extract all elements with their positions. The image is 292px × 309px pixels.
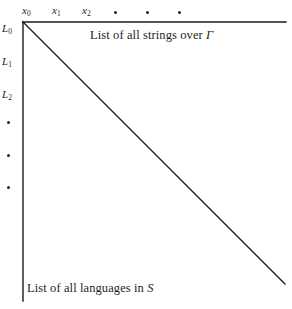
row-ellipsis-dot (7, 186, 10, 189)
row-header-l0: L0 (2, 23, 12, 36)
row-header-l1-subscript: 1 (8, 60, 12, 69)
top-caption: List of all strings over Γ (90, 29, 213, 42)
bottom-caption-symbol-s: S (147, 281, 153, 295)
column-header-x0: x0 (22, 5, 31, 18)
diagram-lines (0, 0, 292, 309)
row-ellipsis-dot (7, 154, 10, 157)
column-ellipsis-dot (178, 11, 181, 14)
row-header-l2: L2 (2, 89, 12, 102)
column-header-x0-subscript: 0 (27, 9, 31, 18)
column-header-x1: x1 (52, 5, 61, 18)
column-ellipsis-dot (146, 11, 149, 14)
column-header-x2: x2 (82, 5, 91, 18)
diagonalization-diagram: x0 x1 x2 L0 L1 L2 List of all strings ov… (0, 0, 292, 309)
top-caption-symbol-gamma: Γ (206, 28, 213, 42)
bottom-caption: List of all languages in S (27, 282, 154, 295)
row-header-l1: L1 (2, 56, 12, 69)
bottom-caption-text: List of all languages in (27, 281, 147, 295)
row-header-l2-subscript: 2 (8, 93, 12, 102)
column-header-x2-subscript: 2 (87, 9, 91, 18)
top-caption-text: List of all strings over (90, 28, 206, 42)
row-ellipsis-dot (7, 121, 10, 124)
row-header-l0-subscript: 0 (8, 27, 12, 36)
column-header-x1-subscript: 1 (57, 9, 61, 18)
column-ellipsis-dot (114, 11, 117, 14)
diagonal-line (23, 22, 285, 284)
